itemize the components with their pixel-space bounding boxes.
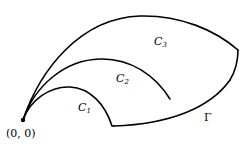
origin-label: (0, 0): [6, 127, 36, 140]
label-c2: C2: [116, 72, 129, 86]
curve-gamma: [114, 80, 230, 126]
curve-c3-right-edge: [230, 50, 238, 80]
curve-c3: [23, 16, 238, 120]
label-gamma: Γ: [204, 111, 212, 124]
origin-point: [21, 118, 25, 122]
curve-c2: [23, 59, 170, 120]
diagram-canvas: (0, 0) C1 C2 C3 Γ: [0, 0, 251, 148]
label-c3: C3: [154, 35, 167, 49]
label-c1: C1: [78, 101, 91, 115]
